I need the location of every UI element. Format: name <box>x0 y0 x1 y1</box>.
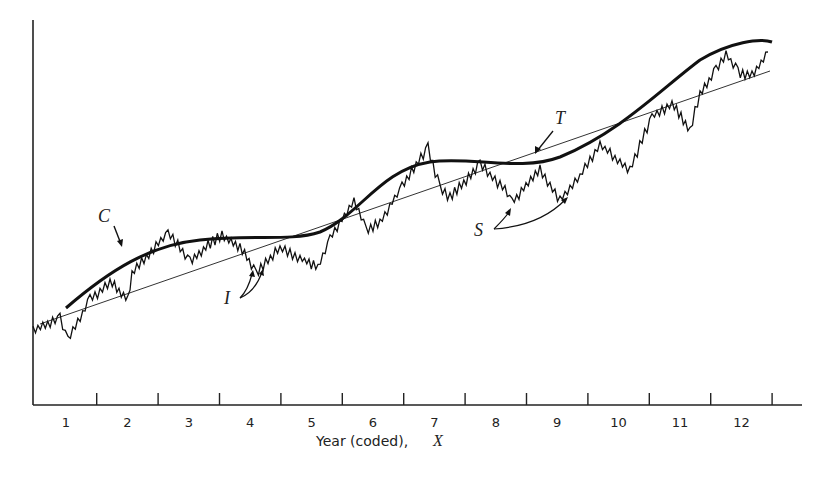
x-axis-title: Year (coded), <box>315 433 408 449</box>
x-axis-variable: X <box>432 432 444 449</box>
svg-text:I: I <box>223 288 231 308</box>
x-tick-label: 8 <box>492 415 500 430</box>
axes <box>33 20 802 405</box>
x-tick-label: 6 <box>369 415 377 430</box>
x-tick-label: 5 <box>307 415 315 430</box>
x-tick-label: 12 <box>733 415 750 430</box>
annotation-S: S <box>474 197 568 240</box>
svg-text:S: S <box>474 220 483 240</box>
x-tick-label: 11 <box>672 415 689 430</box>
annotation-C: C <box>98 206 123 247</box>
x-tick-label: 1 <box>62 415 70 430</box>
x-tick-label: 2 <box>123 415 131 430</box>
x-tick-labels: 123456789101112 <box>62 415 750 430</box>
cyclical-curve-C <box>66 41 772 308</box>
x-tick-label: 10 <box>610 415 627 430</box>
x-tick-label: 7 <box>430 415 438 430</box>
x-ticks <box>97 393 772 405</box>
trend-line-T <box>40 71 770 324</box>
x-tick-label: 9 <box>553 415 561 430</box>
svg-text:C: C <box>98 206 111 226</box>
x-tick-label: 3 <box>185 415 193 430</box>
svg-text:T: T <box>555 108 567 128</box>
x-tick-label: 4 <box>246 415 254 430</box>
time-series-chart: 123456789101112 Year (coded), X C I T S <box>0 0 827 477</box>
